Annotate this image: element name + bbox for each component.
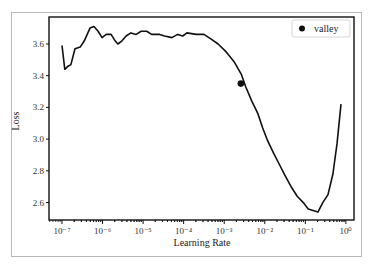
x-tick-label: 10⁻³ bbox=[216, 226, 233, 236]
x-tick-label: 10⁰ bbox=[339, 226, 352, 236]
legend-marker-icon bbox=[299, 26, 305, 32]
x-tick-label: 10⁻⁴ bbox=[175, 226, 192, 236]
plot-area-border bbox=[49, 17, 354, 220]
x-tick-label: 10⁻⁵ bbox=[135, 226, 152, 236]
x-axis-ticks: 10⁻⁷10⁻⁶10⁻⁵10⁻⁴10⁻³10⁻²10⁻¹10⁰ bbox=[50, 220, 353, 236]
y-tick-label: 3.2 bbox=[33, 102, 44, 112]
legend: valley bbox=[292, 20, 350, 37]
x-tick-label: 10⁻⁶ bbox=[94, 226, 111, 236]
y-tick-label: 2.8 bbox=[33, 166, 45, 176]
y-tick-label: 3.6 bbox=[33, 39, 45, 49]
y-tick-label: 2.6 bbox=[33, 198, 45, 208]
loss-line bbox=[62, 27, 341, 213]
y-axis-ticks: 2.62.83.03.23.43.6 bbox=[33, 39, 49, 208]
y-tick-label: 3.0 bbox=[33, 134, 45, 144]
x-axis-label: Learning Rate bbox=[174, 237, 231, 248]
x-tick-label: 10⁻¹ bbox=[297, 226, 314, 236]
y-axis-label: Loss bbox=[10, 111, 21, 130]
x-tick-label: 10⁻² bbox=[256, 226, 273, 236]
valley-marker bbox=[238, 80, 245, 87]
legend-label-valley: valley bbox=[314, 23, 338, 34]
loss-vs-learning-rate-chart: 2.62.83.03.23.43.6 10⁻⁷10⁻⁶10⁻⁵10⁻⁴10⁻³1… bbox=[0, 0, 370, 267]
y-tick-label: 3.4 bbox=[33, 71, 45, 81]
x-tick-label: 10⁻⁷ bbox=[53, 226, 70, 236]
